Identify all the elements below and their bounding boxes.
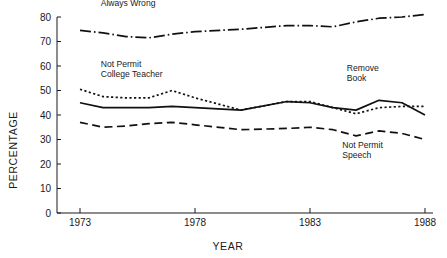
y-tick-label: 40 — [40, 110, 52, 121]
annotation-remove-book: Remove — [347, 63, 379, 73]
x-tick-label: 1983 — [299, 217, 322, 228]
series-line — [80, 100, 425, 115]
y-tick-label: 80 — [40, 12, 52, 23]
annotation-remove-book: Book — [347, 73, 367, 83]
y-tick-label: 10 — [40, 183, 52, 194]
x-axis: 1973197819831988 — [57, 208, 437, 228]
y-axis-title: PERCENTAGE — [7, 111, 19, 189]
annotation-not-permit-college-teacher: College Teacher — [101, 69, 163, 79]
y-tick-label: 50 — [40, 85, 52, 96]
line-chart: 01020304050607080 1973197819831988 Alway… — [0, 0, 447, 258]
y-tick-label: 30 — [40, 134, 52, 145]
annotation-not-permit-speech: Not Permit — [342, 140, 383, 150]
y-tick-label: 20 — [40, 159, 52, 170]
annotation-not-permit-speech: Speech — [342, 150, 371, 160]
x-tick-label: 1978 — [184, 217, 207, 228]
x-tick-label: 1988 — [414, 217, 437, 228]
series-line — [80, 122, 425, 139]
series-line — [80, 89, 425, 114]
annotation-always-wrong: Always Wrong — [101, 0, 156, 8]
series-line — [80, 15, 425, 38]
y-tick-label: 60 — [40, 61, 52, 72]
y-tick-label: 70 — [40, 36, 52, 47]
chart-canvas: 01020304050607080 1973197819831988 Alway… — [0, 0, 447, 258]
y-axis: 01020304050607080 — [40, 12, 61, 219]
y-tick-label: 0 — [45, 208, 51, 219]
series-annotations: Always WrongNot PermitCollege TeacherRem… — [101, 0, 384, 160]
x-tick-label: 1973 — [69, 217, 92, 228]
x-axis-title: YEAR — [213, 240, 244, 252]
annotation-not-permit-college-teacher: Not Permit — [101, 59, 142, 69]
